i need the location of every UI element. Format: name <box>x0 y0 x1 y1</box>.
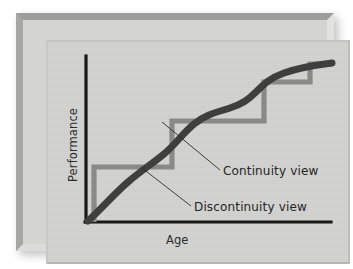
picture-frame: Performance Age Continuity view Disconti… <box>16 13 334 251</box>
smooth-curve <box>88 63 332 221</box>
x-axis-label: Age <box>166 233 189 247</box>
y-axis-label: Performance <box>66 102 80 188</box>
step-line <box>94 64 332 222</box>
annotation-continuity-view: Continuity view <box>223 164 318 178</box>
series-discontinuity-view <box>94 64 332 222</box>
figure-root: Performance Age Continuity view Disconti… <box>0 0 353 269</box>
leader-line-discontinuity <box>142 168 191 206</box>
chart-svg <box>48 42 348 262</box>
series-continuity-view <box>88 63 332 221</box>
annotation-discontinuity-view: Discontinuity view <box>194 200 307 214</box>
chart-panel: Performance Age Continuity view Disconti… <box>48 42 348 262</box>
